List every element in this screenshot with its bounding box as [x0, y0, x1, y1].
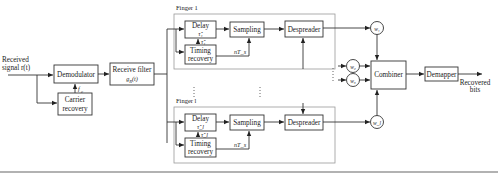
svg-text:τ̂_l: τ̂_l: [201, 131, 208, 138]
svg-text:w₂: w₂: [350, 64, 356, 70]
weight-wl: w_l: [371, 116, 384, 129]
svg-text:τ̂₁: τ̂₁: [201, 38, 206, 45]
svg-text:Carrier: Carrier: [65, 96, 86, 104]
finger-1-delay-block: Delay τ̂₁: [185, 21, 216, 38]
finger-1-sampling-block: Sampling: [230, 22, 264, 37]
weight-w2: w₂: [347, 60, 360, 73]
svg-text:w₃: w₃: [350, 78, 356, 84]
combiner-block: Combiner: [371, 61, 406, 89]
svg-text:Combiner: Combiner: [374, 71, 403, 79]
svg-text:nT_s: nT_s: [234, 48, 247, 55]
receive-filter-block: Receive filter gR(t): [110, 63, 154, 85]
svg-text:recovery: recovery: [62, 105, 88, 113]
finger-l: Finger l Delay τ̂_l τ̂_l Timing recovery…: [167, 97, 335, 163]
finger-l-despreader-block: Despreader: [285, 115, 323, 130]
carrier-recovery-block: Carrier recovery: [58, 93, 92, 115]
svg-text:Delay: Delay: [192, 115, 210, 123]
svg-text:w_l: w_l: [373, 120, 381, 126]
svg-text:c: c: [81, 89, 83, 94]
svg-text:signal r(t): signal r(t): [2, 64, 31, 72]
svg-text:Timing: Timing: [190, 140, 211, 148]
svg-text:w₁: w₁: [374, 26, 380, 32]
input-signal-label: Received signal r(t): [2, 56, 31, 72]
svg-text:nT_s: nT_s: [234, 141, 247, 148]
finger-l-timing-recovery-block: Timing recovery: [185, 138, 216, 157]
svg-text:bits: bits: [470, 86, 481, 94]
finger-1: Finger 1 Delay τ̂₁ τ̂₁ Timing recovery S…: [167, 4, 335, 69]
finger-l-sampling-block: Sampling: [230, 115, 264, 130]
rake-receiver-diagram: Received signal r(t) Demodulator Carrier…: [0, 0, 498, 175]
finger-1-title: Finger 1: [176, 4, 198, 11]
svg-text:Demodulator: Demodulator: [57, 71, 96, 79]
svg-text:τ̂_l: τ̂_l: [197, 123, 204, 130]
svg-text:Despreader: Despreader: [288, 26, 321, 34]
finger-1-despreader-block: Despreader: [285, 21, 323, 37]
svg-text:recovery: recovery: [188, 55, 214, 63]
weight-w1: w₁: [371, 22, 384, 35]
weight-w3: w₃: [347, 74, 360, 87]
svg-text:Demapper: Demapper: [427, 71, 458, 79]
svg-text:Received: Received: [2, 56, 29, 64]
svg-text:Sampling: Sampling: [233, 26, 261, 34]
output-bits-label: Recovered bits: [460, 79, 491, 94]
svg-text:Despreader: Despreader: [288, 119, 321, 127]
finger-1-timing-recovery-block: Timing recovery: [185, 45, 216, 64]
finger-l-title: Finger l: [176, 97, 197, 104]
finger-l-delay-block: Delay τ̂_l: [185, 114, 216, 131]
svg-text:Receive filter: Receive filter: [113, 66, 153, 74]
svg-text:Sampling: Sampling: [233, 119, 261, 127]
demapper-block: Demapper: [425, 67, 458, 81]
svg-text:Delay: Delay: [192, 22, 210, 30]
demodulator-block: Demodulator: [54, 65, 98, 83]
svg-text:Timing: Timing: [190, 47, 211, 55]
svg-text:recovery: recovery: [188, 148, 214, 156]
